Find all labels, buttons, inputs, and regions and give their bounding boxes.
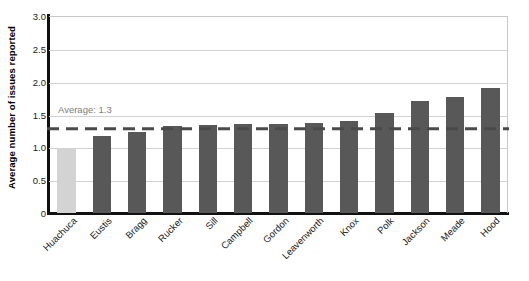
bar[interactable] <box>340 121 358 213</box>
x-axis-tick-label: Meade <box>438 215 466 243</box>
y-axis-tick-label: 2.5 <box>20 43 46 54</box>
bar-chart: Average number of issues reported 3.02.5… <box>0 0 529 281</box>
bar[interactable] <box>93 136 111 213</box>
x-axis-tick-label: Bragg <box>123 215 149 241</box>
y-axis-tick-label: 0 <box>20 208 46 219</box>
bar[interactable] <box>305 123 323 213</box>
y-axis-tick-label: 2.0 <box>20 76 46 87</box>
bar[interactable] <box>128 132 146 213</box>
y-axis-title-text: Average number of issues reported <box>6 26 17 189</box>
y-axis-tick-label: 0.5 <box>20 175 46 186</box>
x-axis-tick-label: Eustis <box>88 215 114 241</box>
bar[interactable] <box>163 126 181 213</box>
x-axis-tick-label: Hood <box>478 215 502 239</box>
x-axis-tick-label: Polk <box>375 215 396 236</box>
x-axis-tick-label: Campbell <box>219 215 255 251</box>
bar[interactable] <box>411 101 429 213</box>
bar[interactable] <box>234 124 252 213</box>
x-axis-tick-label: Knox <box>338 215 361 238</box>
x-axis-tick-label: Huachuca <box>40 215 78 253</box>
bar[interactable] <box>481 88 499 213</box>
x-axis-tick-label: Jackson <box>399 215 431 247</box>
y-axis-tick-label: 3.0 <box>20 11 46 22</box>
x-axis-tick-label: Gordon <box>260 215 290 245</box>
y-axis-tick-label: 1.5 <box>20 109 46 120</box>
y-axis-tick-labels: 3.02.52.01.51.00.50 <box>18 0 46 214</box>
x-axis-tick-label: Sill <box>203 215 220 232</box>
bars-layer <box>49 17 507 213</box>
average-line-label: Average: 1.3 <box>58 104 112 115</box>
plot-area: Average: 1.3 <box>49 16 508 213</box>
bar[interactable] <box>446 97 464 213</box>
average-reference-line <box>47 127 509 131</box>
y-axis-tick-label: 1.0 <box>20 142 46 153</box>
bar[interactable] <box>57 149 75 213</box>
bar[interactable] <box>269 124 287 213</box>
bar[interactable] <box>199 125 217 213</box>
x-axis-tick-label: Rucker <box>155 215 184 244</box>
x-axis-tick-labels: HuachucaEustisBraggRuckerSillCampbellGor… <box>49 215 508 281</box>
